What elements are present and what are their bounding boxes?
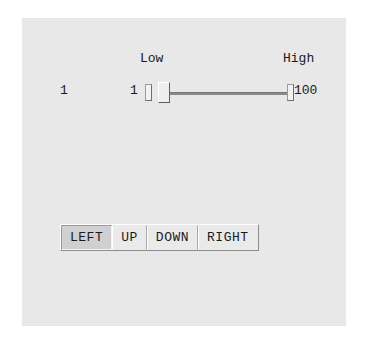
range-slider[interactable] [144, 80, 292, 106]
direction-button-left[interactable]: LEFT [61, 225, 112, 250]
slider-low-thumb[interactable] [158, 82, 170, 103]
direction-button-up-label: UP [121, 230, 138, 245]
direction-button-left-label: LEFT [70, 230, 103, 245]
scale-row: 1 1 100 [22, 80, 346, 106]
slider-low-tick-marker[interactable] [145, 84, 152, 101]
slider-high-thumb[interactable] [287, 84, 294, 101]
scale-low-caption: Low [140, 52, 163, 65]
direction-button-bar: LEFT UP DOWN RIGHT [60, 224, 259, 251]
scale-outer-value-label: 1 [60, 84, 68, 97]
direction-button-right[interactable]: RIGHT [198, 225, 258, 250]
scale-high-caption: High [283, 52, 314, 65]
direction-button-up[interactable]: UP [112, 225, 147, 250]
application-panel: Low High 1 1 100 LEFT UP DOWN RIGHT [22, 18, 346, 326]
slider-track[interactable] [166, 92, 290, 95]
scale-min-value-label: 1 [130, 84, 138, 97]
direction-button-down[interactable]: DOWN [147, 225, 198, 250]
direction-button-right-label: RIGHT [207, 230, 249, 245]
scale-max-value-label: 100 [294, 84, 317, 97]
scale-widget-group: Low High 1 1 100 [22, 18, 346, 118]
direction-button-down-label: DOWN [156, 230, 189, 245]
